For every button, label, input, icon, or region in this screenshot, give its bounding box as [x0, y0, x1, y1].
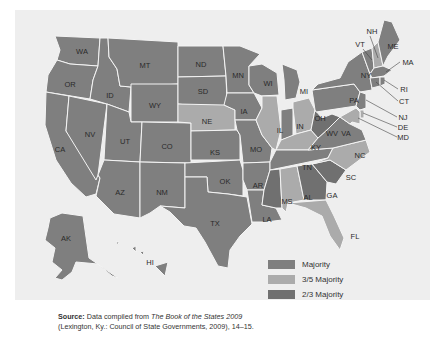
label-GA: GA [327, 191, 338, 200]
label-CA: CA [55, 145, 65, 154]
label-VA: VA [341, 129, 350, 138]
state-CT [370, 77, 380, 88]
legend-label: 2/3 Majority [302, 290, 343, 299]
label-WV: WV [326, 129, 338, 138]
source-book-title: The Book of the States 2009 [151, 312, 242, 321]
label-OR: OR [64, 80, 76, 89]
legend-label: 3/5 Majority [302, 275, 343, 284]
label-OH: OH [314, 114, 325, 123]
legend-swatch-three-fifths [268, 275, 295, 284]
label-ME: ME [387, 42, 398, 51]
label-WA: WA [76, 47, 88, 56]
label-TN: TN [302, 163, 312, 172]
state-RI [380, 77, 385, 86]
state-FL [288, 200, 344, 250]
source-text: Data compiled from [85, 312, 151, 321]
label-WI: WI [263, 79, 272, 88]
label-WY: WY [149, 101, 161, 110]
state-IN [281, 108, 293, 140]
label-AK: AK [61, 234, 71, 243]
legend-swatch-two-thirds [268, 290, 295, 299]
state-AK [45, 213, 118, 280]
label-NJ: NJ [398, 113, 407, 122]
label-KS: KS [210, 148, 220, 157]
label-NC: NC [355, 151, 366, 160]
source-prefix: Source: [58, 312, 85, 321]
label-FL: FL [351, 232, 360, 241]
label-MS: MS [281, 197, 292, 206]
label-TX: TX [210, 219, 220, 228]
label-AR: AR [253, 181, 264, 190]
label-AL: AL [303, 193, 312, 202]
label-CT: CT [399, 97, 409, 106]
label-NH: NH [367, 27, 378, 36]
label-NM: NM [156, 188, 168, 197]
label-AZ: AZ [115, 188, 125, 197]
legend-swatch-majority [268, 260, 295, 269]
us-map: WA OR CA NV ID MT WY UT AZ CO NM ND SD N… [0, 0, 440, 352]
state-MI [282, 64, 300, 100]
label-IN: IN [296, 122, 304, 131]
label-MI: MI [300, 87, 308, 96]
label-UT: UT [120, 137, 130, 146]
label-NE: NE [202, 117, 212, 126]
label-PA: PA [349, 96, 358, 105]
legend-item-majority: Majority [268, 258, 343, 271]
label-MN: MN [232, 71, 244, 80]
source-citation: (Lexington, Ky.: Council of State Govern… [58, 322, 254, 331]
label-NY: NY [361, 71, 371, 80]
label-IA: IA [240, 107, 247, 116]
label-CO: CO [161, 142, 172, 151]
label-ID: ID [106, 91, 114, 100]
map-legend: Majority 3/5 Majority 2/3 Majority [268, 258, 343, 303]
label-ND: ND [196, 60, 207, 69]
state-DE [360, 110, 364, 118]
label-MO: MO [250, 145, 262, 154]
label-OK: OK [220, 177, 231, 186]
state-HI [116, 242, 168, 276]
label-KY: KY [311, 143, 321, 152]
label-RI: RI [400, 85, 408, 94]
label-MA: MA [402, 58, 413, 67]
source-note: Source: Data compiled from The Book of t… [58, 312, 254, 332]
legend-item-two-thirds: 2/3 Majority [268, 288, 343, 301]
label-MT: MT [140, 61, 151, 70]
label-SD: SD [198, 87, 209, 96]
label-VT: VT [355, 40, 365, 49]
label-LA: LA [262, 215, 271, 224]
label-DE: DE [398, 123, 408, 132]
label-NV: NV [85, 130, 95, 139]
label-MD: MD [397, 133, 409, 142]
label-HI: HI [146, 258, 154, 267]
legend-label: Majority [302, 260, 330, 269]
legend-item-three-fifths: 3/5 Majority [268, 273, 343, 286]
label-SC: SC [346, 173, 357, 182]
label-IL: IL [277, 126, 283, 135]
